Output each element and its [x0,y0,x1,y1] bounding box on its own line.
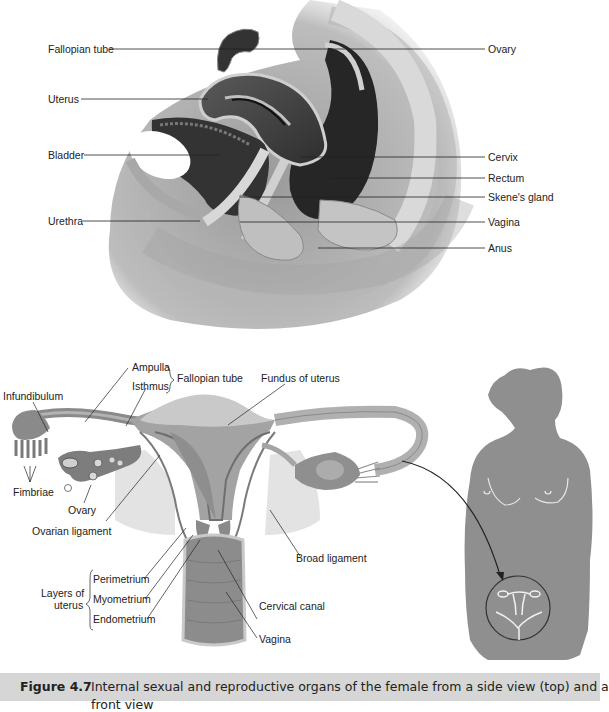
label-uterus-side: Uterus [48,93,79,105]
label-ovary-side: Ovary [488,43,516,55]
body-silhouette [465,368,593,661]
figure-caption: Figure 4.7 Internal sexual and reproduct… [0,673,600,701]
label-ovary-front: Ovary [68,504,96,516]
label-ovarian-ligament: Ovarian ligament [32,525,111,537]
label-endometrium: Endometrium [93,613,155,625]
label-fundus-of-uterus: Fundus of uterus [261,372,340,384]
label-fallopian-tube-side: Fallopian tube [48,43,114,55]
label-infundibulum: Infundibulum [3,390,63,402]
label-ampulla: Ampulla [132,361,170,373]
label-layers-of-uterus: Layers of [41,587,84,599]
label-urethra: Urethra [48,215,83,227]
label-bladder: Bladder [48,149,84,161]
figure-number: Figure 4.7 [20,679,92,694]
label-broad-ligament: Broad ligament [296,552,367,564]
label-cervix: Cervix [488,151,518,163]
caption-text: Internal sexual and reproductive organs … [91,679,609,694]
caption-text-line2: front view [91,697,154,712]
label-anus: Anus [488,242,512,254]
label-cervical-canal: Cervical canal [259,600,325,612]
label-layers-of-uterus-2: uterus [54,599,83,611]
label-fallopian-tube-front: Fallopian tube [177,372,243,384]
label-vagina-front: Vagina [259,633,291,645]
label-skenes-gland: Skene's gland [488,191,554,203]
label-myometrium: Myometrium [93,593,151,605]
label-vagina-side: Vagina [488,216,520,228]
label-isthmus: Isthmus [132,380,169,392]
label-fimbriae: Fimbriae [13,486,54,498]
label-perimetrium: Perimetrium [93,573,150,585]
label-rectum: Rectum [488,172,524,184]
